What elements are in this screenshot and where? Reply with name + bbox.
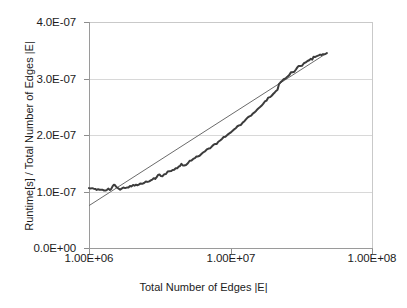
- gridline-y-2e-07: [90, 135, 372, 136]
- runtime-per-edge-chart: 4.0E-07 3.0E-07 2.0E-07 1.0E-07 0.0E+00 …: [0, 0, 407, 308]
- y-tick-label-1e-07: 1.0E-07: [0, 186, 76, 198]
- x-tick-label-1e06: 1.00E+06: [34, 252, 144, 264]
- y-tick-1e-07: [84, 192, 89, 193]
- y-tick-3e-07: [84, 79, 89, 80]
- gridline-y-3e-07: [90, 79, 372, 80]
- y-tick-4e-07: [84, 22, 89, 23]
- y-tick-2e-07: [84, 135, 89, 136]
- gridline-y-1e-07: [90, 192, 372, 193]
- plot-frame-right: [372, 22, 373, 249]
- x-tick-label-1e08: 1.00E+08: [317, 252, 407, 264]
- y-tick-label-4e-07: 4.0E-07: [0, 16, 76, 28]
- x-axis-title: Total Number of Edges |E|: [0, 281, 407, 293]
- y-tick-label-2e-07: 2.0E-07: [0, 129, 76, 141]
- y-tick-label-3e-07: 3.0E-07: [0, 73, 76, 85]
- plot-frame-top: [89, 22, 373, 23]
- x-tick-label-1e07: 1.00E+07: [176, 252, 286, 264]
- y-axis-title: Runtime[s] / Total Number of Edges |E|: [23, 16, 35, 256]
